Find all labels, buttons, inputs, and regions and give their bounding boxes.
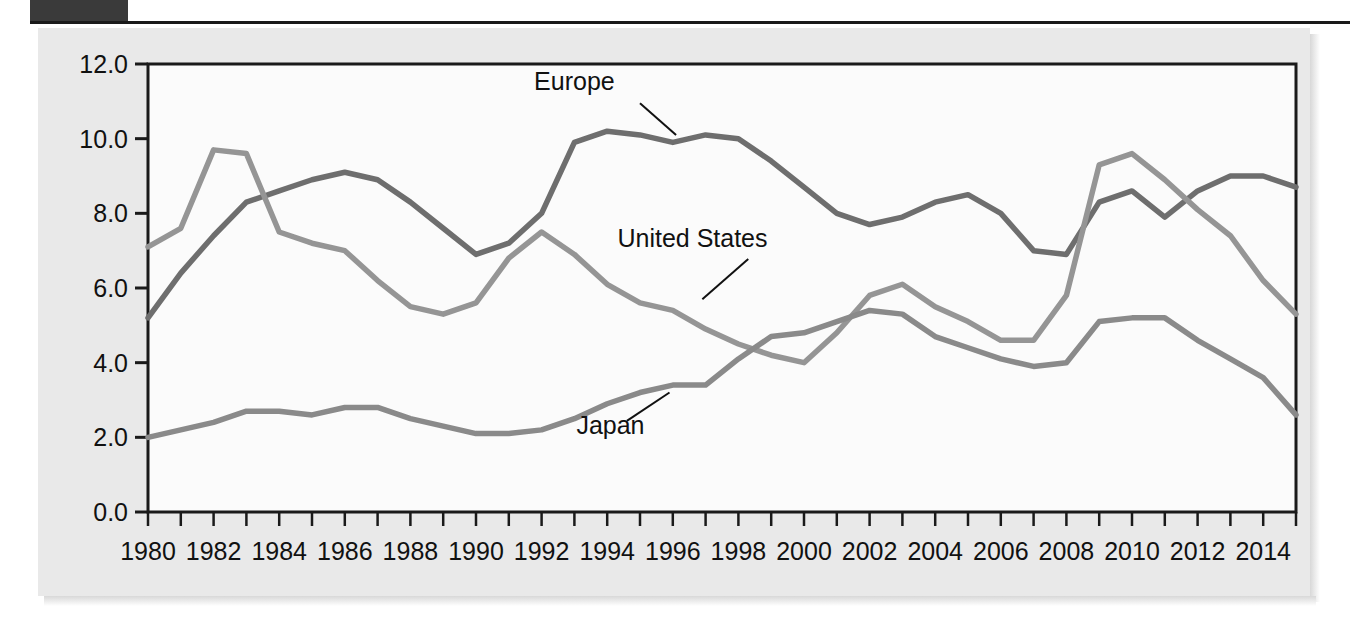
- line-chart: 0.02.04.06.08.010.012.019801982198419861…: [38, 28, 1310, 596]
- y-axis-tick-label: 6.0: [93, 274, 128, 302]
- x-axis-tick-label: 1988: [383, 537, 439, 565]
- panel-shadow-right: [1310, 34, 1320, 602]
- page-top-rule: [30, 21, 1350, 24]
- y-axis-tick-label: 4.0: [93, 349, 128, 377]
- x-axis-tick-label: 2014: [1235, 537, 1291, 565]
- x-axis-tick-label: 2010: [1104, 537, 1160, 565]
- x-axis-tick-label: 1984: [251, 537, 307, 565]
- series-label-united-states: United States: [617, 224, 767, 252]
- figure-panel: Unemployment rate (percent) 0.02.04.06.0…: [38, 28, 1310, 596]
- y-axis-tick-label: 8.0: [93, 199, 128, 227]
- x-axis-tick-label: 2004: [907, 537, 963, 565]
- x-axis-tick-label: 1998: [711, 537, 767, 565]
- x-axis-tick-label: 2012: [1170, 537, 1226, 565]
- panel-shadow-bottom: [44, 596, 1316, 606]
- page-root: Unemployment rate (percent) 0.02.04.06.0…: [0, 0, 1350, 631]
- x-axis-tick-label: 1994: [579, 537, 635, 565]
- y-axis-tick-label: 2.0: [93, 423, 128, 451]
- plot-area: [148, 64, 1296, 512]
- x-axis-tick-label: 2002: [842, 537, 898, 565]
- y-axis-tick-label: 0.0: [93, 498, 128, 526]
- x-axis-tick-label: 2006: [973, 537, 1029, 565]
- page-corner-block: [30, 0, 128, 21]
- y-axis-tick-label: 12.0: [79, 50, 128, 78]
- x-axis-tick-label: 1990: [448, 537, 504, 565]
- x-axis-tick-label: 2008: [1039, 537, 1095, 565]
- x-axis-tick-label: 1992: [514, 537, 570, 565]
- y-axis-tick-label: 10.0: [79, 125, 128, 153]
- x-axis-tick-label: 1980: [120, 537, 176, 565]
- x-axis-tick-label: 2000: [776, 537, 832, 565]
- x-axis-tick-label: 1982: [186, 537, 242, 565]
- series-label-europe: Europe: [534, 67, 615, 95]
- series-label-japan: Japan: [576, 411, 644, 439]
- x-axis-tick-label: 1996: [645, 537, 701, 565]
- x-axis-tick-label: 1986: [317, 537, 373, 565]
